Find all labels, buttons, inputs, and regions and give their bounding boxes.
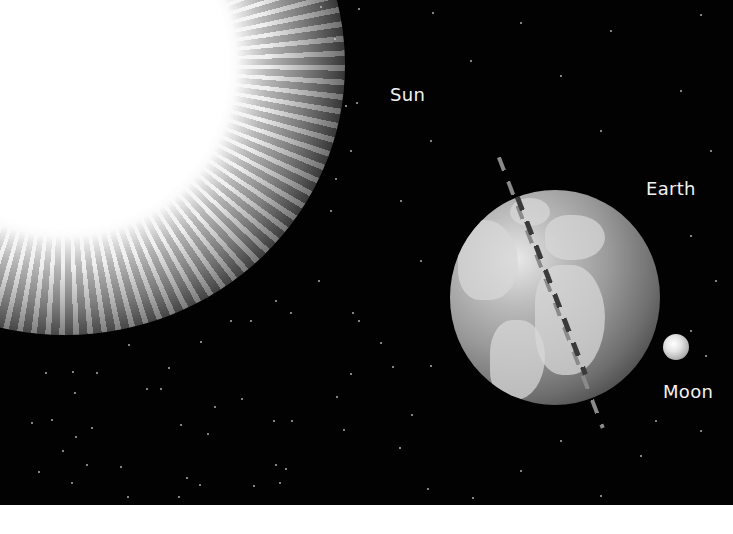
- sun-label: Sun: [390, 84, 425, 105]
- space-background: Sun Earth Moon: [0, 0, 733, 505]
- moon-label: Moon: [663, 381, 713, 402]
- earth-label: Earth: [646, 178, 696, 199]
- sun-rays: [0, 0, 345, 335]
- moon-illustration: [663, 334, 689, 360]
